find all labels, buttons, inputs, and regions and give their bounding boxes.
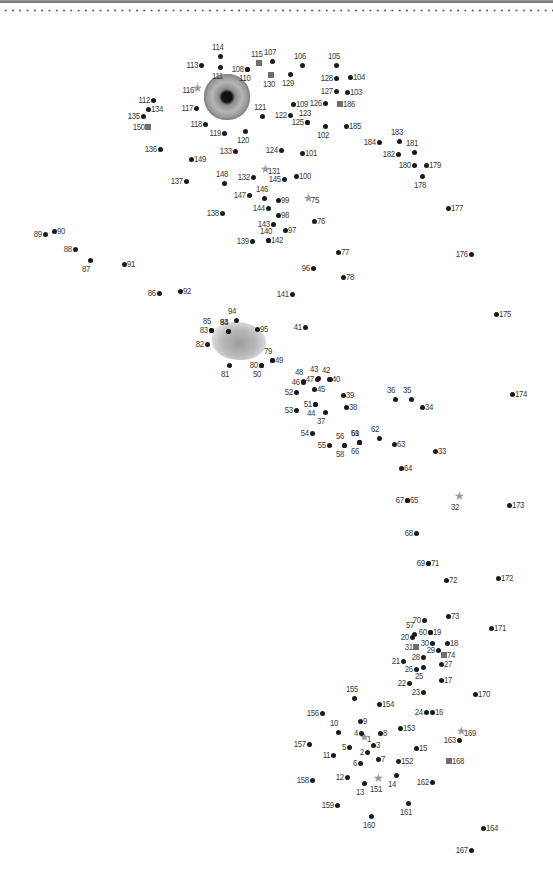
point-number-label: 40: [332, 374, 340, 384]
point-number-label: 31: [405, 642, 413, 652]
dot-marker-icon: [341, 275, 346, 280]
point-number-label: 75: [311, 195, 319, 205]
dot-marker-icon: [233, 149, 238, 154]
point-number-label: 107: [264, 47, 276, 57]
point-number-label: 157: [294, 739, 306, 749]
dot-marker-icon: [158, 147, 163, 152]
dot-marker-icon: [444, 578, 449, 583]
point-number-label: 32: [451, 502, 459, 512]
point-number-label: 77: [341, 247, 349, 257]
point-number-label: 1: [367, 734, 371, 744]
point-number-label: 129: [282, 78, 294, 88]
dot-marker-icon: [358, 761, 363, 766]
point-number-label: 130: [263, 79, 275, 89]
dot-marker-icon: [259, 363, 264, 368]
point-number-label: 86: [148, 288, 156, 298]
point-number-label: 150: [133, 122, 145, 132]
point-number-label: 149: [194, 154, 206, 164]
point-number-label: 88: [64, 244, 72, 254]
dot-marker-icon: [270, 59, 275, 64]
point-number-label: 14: [388, 779, 396, 789]
dot-marker-icon: [358, 719, 363, 724]
dot-marker-icon: [282, 177, 287, 182]
dot-marker-icon: [347, 745, 352, 750]
point-number-label: 64: [404, 463, 412, 473]
dot-marker-icon: [412, 632, 417, 637]
dot-marker-icon: [407, 681, 412, 686]
point-number-label: 106: [294, 51, 306, 61]
point-number-label: 35: [403, 385, 411, 395]
dot-marker-icon: [377, 436, 382, 441]
point-number-label: 141: [277, 289, 289, 299]
point-number-label: 96: [302, 263, 310, 273]
point-number-label: 155: [346, 684, 358, 694]
dot-marker-icon: [414, 667, 419, 672]
point-number-label: 139: [237, 236, 249, 246]
dot-marker-icon: [510, 392, 515, 397]
point-number-label: 144: [253, 203, 265, 213]
dot-marker-icon: [348, 75, 353, 80]
dot-marker-icon: [469, 848, 474, 853]
dot-marker-icon: [199, 63, 204, 68]
dot-marker-icon: [43, 232, 48, 237]
point-number-label: 46: [292, 377, 300, 387]
point-number-label: 98: [281, 210, 289, 220]
point-number-label: 135: [128, 111, 140, 121]
dot-marker-icon: [397, 139, 402, 144]
dot-marker-icon: [446, 614, 451, 619]
dot-to-dot-board: ★123456789101112131415161718192021222324…: [0, 0, 553, 883]
dot-marker-icon: [481, 826, 486, 831]
dot-marker-icon: [88, 258, 93, 263]
point-number-label: 12: [336, 772, 344, 782]
point-number-label: 119: [210, 128, 221, 138]
dot-marker-icon: [307, 742, 312, 747]
point-number-label: 19: [433, 627, 441, 637]
dot-marker-icon: [494, 312, 499, 317]
dot-marker-icon: [421, 665, 426, 670]
dot-marker-icon: [412, 150, 417, 155]
point-number-label: 110: [239, 73, 250, 83]
dot-marker-icon: [218, 65, 223, 70]
point-number-label: 67: [396, 495, 404, 505]
point-number-label: 68: [405, 528, 413, 538]
dot-marker-icon: [234, 318, 239, 323]
dot-marker-icon: [362, 781, 367, 786]
dot-marker-icon: [157, 291, 162, 296]
square-marker-icon: [256, 60, 262, 66]
dot-marker-icon: [209, 328, 214, 333]
point-number-label: 48: [295, 367, 303, 377]
dot-marker-icon: [430, 780, 435, 785]
dot-marker-icon: [245, 67, 250, 72]
point-number-label: 133: [220, 146, 232, 156]
point-number-label: 116: [183, 85, 194, 95]
dot-marker-icon: [398, 726, 403, 731]
point-number-label: 13: [356, 787, 364, 797]
point-number-label: 72: [449, 575, 457, 585]
point-number-label: 100: [299, 171, 311, 181]
dot-marker-icon: [303, 325, 308, 330]
dot-marker-icon: [422, 618, 427, 623]
point-number-label: 160: [363, 820, 375, 830]
dot-marker-icon: [405, 498, 410, 503]
dot-marker-icon: [328, 377, 333, 382]
point-number-label: 22: [398, 678, 406, 688]
dot-marker-icon: [311, 266, 316, 271]
point-number-label: 70: [413, 615, 421, 625]
point-number-label: 73: [451, 611, 459, 621]
point-number-label: 38: [349, 402, 357, 412]
point-number-label: 170: [478, 689, 490, 699]
dot-marker-icon: [291, 102, 296, 107]
point-number-label: 156: [307, 708, 319, 718]
point-number-label: 112: [139, 95, 150, 105]
point-number-label: 15: [419, 743, 427, 753]
point-number-label: 9: [363, 716, 367, 726]
dot-marker-icon: [301, 379, 306, 384]
point-number-label: 17: [444, 675, 452, 685]
dot-marker-icon: [276, 213, 281, 218]
point-number-label: 25: [415, 671, 423, 681]
dot-marker-icon: [428, 630, 433, 635]
dot-marker-icon: [496, 576, 501, 581]
dot-marker-icon: [359, 731, 364, 736]
dot-marker-icon: [266, 206, 271, 211]
dot-marker-icon: [227, 363, 232, 368]
